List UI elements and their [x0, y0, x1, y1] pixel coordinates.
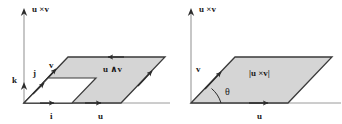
left-diagram-panel: u ×v k j i v u u ∧v	[0, 0, 171, 124]
v-label: v	[49, 60, 54, 70]
j-label: j	[32, 68, 36, 78]
wedge-product-label: u ∧v	[103, 64, 123, 74]
magnitude-label: |u ×v|	[249, 68, 270, 78]
left-axis-label: u ×v	[32, 4, 49, 14]
u-label: u	[98, 111, 103, 121]
k-label: k	[12, 75, 17, 85]
vector-cross-product-figure: u ×v k j i v u u ∧v u ×v v u θ |u ×	[0, 0, 342, 124]
theta-label: θ	[225, 86, 230, 97]
right-diagram-panel: u ×v v u θ |u ×v|	[171, 0, 342, 124]
magnitude-parallelogram	[191, 57, 332, 103]
u-label: u	[257, 111, 262, 121]
i-label: i	[50, 111, 53, 121]
v-label: v	[196, 64, 201, 74]
right-axis-label: u ×v	[199, 4, 216, 14]
